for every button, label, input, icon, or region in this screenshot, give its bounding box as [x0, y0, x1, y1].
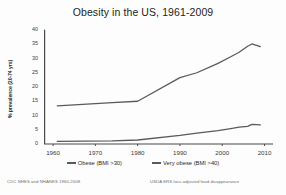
x-tick-label: 1990 [165, 150, 195, 156]
x-tick-label: 2010 [250, 150, 280, 156]
legend-item-very-obese: Very obese (BMI >40) [152, 160, 219, 166]
legend-line-icon [152, 162, 161, 163]
chart-footer: CDC NHES and NHANES 1960-2008 USDA ERS l… [0, 179, 286, 189]
chart-canvas [44, 28, 274, 146]
series-line-very-obese [57, 124, 260, 141]
legend-line-icon [67, 162, 76, 163]
y-tick-label: 25 [24, 70, 38, 75]
plot-area [44, 28, 274, 146]
chart-title: Obesity in the US, 1961-2009 [0, 6, 286, 18]
y-axis-title: % prevalence (20-74 yrs) [7, 0, 13, 46]
x-tick-label: 1960 [38, 150, 68, 156]
data-series-group [57, 44, 260, 141]
y-tick-label: 40 [24, 27, 38, 32]
y-tick-label: 30 [24, 56, 38, 61]
y-tick-label: 10 [24, 113, 38, 118]
y-tick-label: 0 [24, 141, 38, 146]
x-tick-label: 2000 [207, 150, 237, 156]
y-axis-title-text: % prevalence (20-74 yrs) [7, 46, 13, 132]
source-note-left: CDC NHES and NHANES 1960-2008 [7, 179, 80, 184]
x-tick-label: 1970 [80, 150, 110, 156]
chart-legend: Obese (BMI >30) Very obese (BMI >40) [0, 160, 286, 166]
source-note-right: USDA ERS loss-adjusted food disappearanc… [150, 179, 239, 184]
legend-label: Very obese (BMI >40) [163, 160, 219, 166]
y-tick-label: 35 [24, 41, 38, 46]
x-tick-label: 1980 [123, 150, 153, 156]
y-tick-label: 5 [24, 127, 38, 132]
legend-item-obese: Obese (BMI >30) [67, 160, 122, 166]
legend-label: Obese (BMI >30) [78, 160, 122, 166]
series-line-obese [57, 44, 260, 106]
y-tick-label: 15 [24, 98, 38, 103]
chart-figure: Obesity in the US, 1961-2009 % prevalenc… [0, 0, 286, 195]
y-tick-label: 20 [24, 84, 38, 89]
